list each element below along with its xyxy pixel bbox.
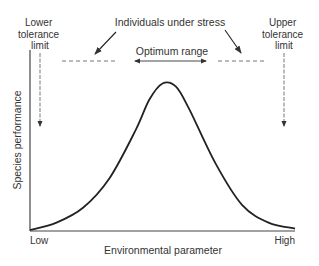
stress-arrow-right xyxy=(225,30,241,53)
stress-arrow-left xyxy=(95,32,116,54)
y-axis-label: Species performance xyxy=(11,90,23,189)
tolerance-diagram: Lower tolerance limit Upper tolerance li… xyxy=(0,0,319,266)
x-tick-high: High xyxy=(274,235,295,246)
optimum-label: Optimum range xyxy=(136,45,209,57)
lower-tolerance-label: Lower tolerance limit xyxy=(18,17,62,51)
upper-tolerance-label: Upper tolerance limit xyxy=(262,17,306,51)
performance-curve xyxy=(30,82,295,230)
x-tick-low: Low xyxy=(30,235,49,246)
x-axis-label: Environmental parameter xyxy=(104,244,222,256)
stress-label: Individuals under stress xyxy=(115,16,225,28)
